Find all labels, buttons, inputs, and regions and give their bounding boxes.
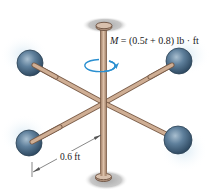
dimension-label: 0.6 ft	[60, 152, 80, 162]
ball-top-left	[17, 50, 43, 76]
dimension-arrow-right	[94, 135, 101, 140]
dimension-arrow-left	[33, 167, 40, 172]
ball-top-right	[166, 48, 192, 74]
top-cap-face	[96, 22, 112, 28]
moment-label: M = (0.5t + 0.8) lb · ft	[109, 35, 199, 47]
spoke-top-right-front	[150, 65, 172, 77]
moment-equals: = (0.5	[118, 35, 144, 47]
shaft-body	[101, 26, 107, 178]
shaft-base	[101, 170, 107, 176]
rotating-assembly-diagram: 0.6 ft M = (0.5t + 0.8) lb · ft	[0, 0, 212, 193]
ball-bottom-right	[164, 126, 192, 154]
ball-bottom-left	[16, 130, 42, 156]
vertical-shaft	[101, 26, 107, 178]
moment-rest: + 0.8) lb · ft	[148, 35, 199, 47]
